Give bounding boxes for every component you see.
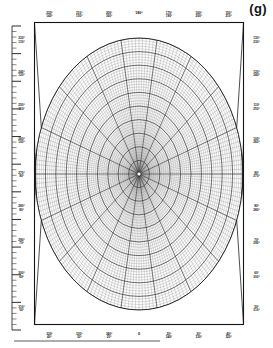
angle-label-secondary: 30° <box>77 335 82 339</box>
angle-label-secondary: 280° <box>253 208 260 212</box>
angle-label-secondary: 110° <box>18 107 25 111</box>
angle-label-secondary: 80° <box>19 208 24 212</box>
polar-chart-canvas: 220°140°210°150°200°160°180°170°190°160°… <box>0 0 273 348</box>
angle-label-secondary: 190° <box>166 14 173 18</box>
angle-label-secondary: 230° <box>253 40 260 44</box>
angle-label-secondary: 300° <box>253 275 260 279</box>
angle-label-secondary: 330° <box>195 335 202 339</box>
angle-label-secondary: 200° <box>195 14 202 18</box>
angle-label-secondary: 250° <box>253 107 260 111</box>
angle-label-secondary: 310° <box>253 308 260 312</box>
angle-label-secondary: 240° <box>253 73 260 77</box>
angle-label-secondary: 130° <box>18 40 25 44</box>
angle-label-secondary: 140° <box>46 14 53 18</box>
chart-origin-marker <box>137 172 141 176</box>
angle-label-secondary: 150° <box>76 14 83 18</box>
angle-label-secondary: 60° <box>19 275 24 279</box>
angle-label-secondary: 20° <box>107 335 112 339</box>
angle-label-secondary: 90° <box>19 174 24 178</box>
angle-label-secondary: 100° <box>18 140 25 144</box>
panel-label: (g) <box>249 1 267 16</box>
angle-label-secondary: 270° <box>253 174 260 178</box>
angle-label: 180° <box>135 11 143 15</box>
angle-label-secondary: 50° <box>19 308 24 312</box>
angle-label-secondary: 340° <box>166 335 173 339</box>
angle-label-secondary: 210° <box>225 14 232 18</box>
angle-label-secondary: 120° <box>18 73 25 77</box>
angle-label-secondary: 290° <box>253 241 260 245</box>
angle-label-secondary: 320° <box>225 335 232 339</box>
polar-chart-figure: 220°140°210°150°200°160°180°170°190°160°… <box>0 0 273 348</box>
angle-label-secondary: 160° <box>106 14 113 18</box>
angle-label-secondary: 70° <box>19 241 24 245</box>
angle-label-secondary: 40° <box>47 335 52 339</box>
angle-label-secondary: 260° <box>253 140 260 144</box>
